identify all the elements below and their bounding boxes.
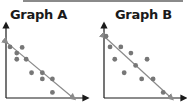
data-point xyxy=(161,90,166,95)
trend-line xyxy=(104,36,171,98)
trend-line xyxy=(6,42,73,98)
data-point xyxy=(104,34,109,39)
data-point xyxy=(24,57,29,62)
scatter-charts xyxy=(0,0,187,109)
data-point xyxy=(118,45,123,50)
data-point xyxy=(139,77,144,82)
data-point xyxy=(112,57,117,62)
data-point xyxy=(14,57,19,62)
data-point xyxy=(133,63,138,68)
data-point xyxy=(129,51,134,56)
data-point xyxy=(14,51,19,56)
data-point xyxy=(122,70,127,75)
data-point xyxy=(50,77,55,82)
data-point xyxy=(50,90,55,95)
graph-b xyxy=(104,25,184,98)
data-point xyxy=(40,77,45,82)
graph-a xyxy=(6,25,86,98)
data-point xyxy=(29,70,34,75)
data-point xyxy=(8,45,13,50)
data-point xyxy=(145,57,150,62)
data-point xyxy=(20,45,25,50)
data-point xyxy=(108,45,113,50)
data-point xyxy=(40,70,45,75)
data-point xyxy=(151,77,156,82)
